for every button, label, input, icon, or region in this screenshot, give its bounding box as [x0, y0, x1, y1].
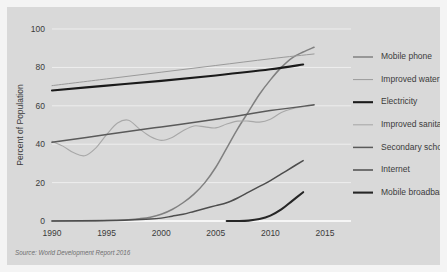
- series-line-improved-sanitation: [52, 105, 314, 156]
- legend-group: Mobile phoneImproved waterElectricityImp…: [353, 51, 440, 197]
- legend-label-mobile-broadband: Mobile broadband: [381, 187, 440, 197]
- y-axis-title-group: Percent of Population: [15, 84, 25, 166]
- legend-label-secondary-school: Secondary school: [381, 142, 440, 152]
- legend-label-improved-water: Improved water: [381, 74, 440, 84]
- series-line-mobile-broadband: [227, 192, 303, 221]
- chart-figure: 020406080100 199019952000200520102015 Pe…: [0, 0, 447, 272]
- source-note-group: Source: World Development Report 2016: [15, 249, 131, 257]
- x-tick-label: 2000: [152, 228, 171, 238]
- x-tick-label: 2010: [261, 228, 280, 238]
- x-tick-label: 1990: [43, 228, 62, 238]
- legend-label-electricity: Electricity: [381, 96, 418, 106]
- y-tick-label: 100: [31, 24, 45, 34]
- source-note: Source: World Development Report 2016: [15, 249, 131, 257]
- y-tick-label: 20: [36, 178, 46, 188]
- plot-wrapper: 020406080100 199019952000200520102015 Pe…: [7, 7, 440, 265]
- x-tick-label: 2005: [206, 228, 225, 238]
- legend-label-mobile-phone: Mobile phone: [381, 51, 432, 61]
- legend-label-improved-sanitation: Improved sanitation: [381, 119, 440, 129]
- x-tick-label: 2015: [316, 228, 335, 238]
- series-line-internet: [52, 161, 303, 221]
- chart-panel: 020406080100 199019952000200520102015 Pe…: [7, 7, 440, 265]
- y-tick-label: 60: [36, 101, 46, 111]
- y-tick-label: 80: [36, 62, 46, 72]
- x-tick-labels-group: 199019952000200520102015: [43, 228, 335, 238]
- series-lines-group: [52, 47, 314, 221]
- x-tick-label: 1995: [97, 228, 116, 238]
- y-axis-title: Percent of Population: [15, 84, 25, 166]
- y-tick-label: 0: [40, 216, 45, 226]
- y-tick-label: 40: [36, 139, 46, 149]
- series-line-mobile-phone: [52, 47, 314, 221]
- legend-label-internet: Internet: [381, 164, 410, 174]
- line-chart: 020406080100 199019952000200520102015 Pe…: [7, 7, 440, 265]
- y-tick-labels-group: 020406080100: [31, 24, 45, 226]
- series-line-secondary-school: [52, 105, 314, 142]
